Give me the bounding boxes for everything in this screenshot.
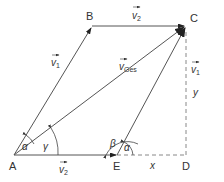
- point-label-a: A: [9, 160, 17, 172]
- dimension-label-y: y: [192, 87, 199, 98]
- label-v1-ab: v1: [51, 55, 60, 69]
- label-v1-ec: v1: [191, 62, 200, 76]
- angle-label-alpha-e: α: [124, 142, 130, 153]
- dimension-label-x: x: [149, 160, 156, 171]
- angle-label-gamma-a: γ: [43, 141, 49, 152]
- label-vges: vGes: [119, 59, 137, 73]
- vector-v1-ab: [14, 28, 91, 155]
- svg-text:v2: v2: [59, 164, 68, 176]
- label-v2-bc: v2: [132, 7, 141, 22]
- svg-text:v1: v1: [51, 57, 60, 69]
- angle-label-alpha-a: α: [22, 141, 28, 152]
- angle-arc-gamma-a: [51, 128, 58, 155]
- svg-text:v1: v1: [191, 64, 200, 76]
- svg-text:vGes: vGes: [119, 61, 137, 73]
- point-label-d: D: [182, 160, 190, 172]
- point-label-c: C: [190, 12, 198, 24]
- label-v2-ae: v2: [59, 162, 68, 176]
- svg-text:v2: v2: [132, 10, 141, 22]
- point-label-b: B: [86, 10, 93, 22]
- vector-v1-ec: [117, 28, 185, 155]
- angle-label-beta-e: β: [109, 138, 116, 149]
- diagram-svg: B C A E D v1 v2 vGes v1 v2 α γ β α: [0, 0, 224, 182]
- vector-vges-ac: [14, 27, 184, 155]
- vector-diagram: B C A E D v1 v2 vGes v1 v2 α γ β α: [0, 0, 224, 182]
- point-label-e: E: [113, 160, 120, 172]
